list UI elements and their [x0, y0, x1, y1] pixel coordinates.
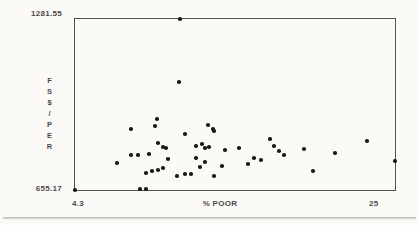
data-point	[144, 187, 148, 191]
data-point	[73, 188, 77, 192]
data-point	[164, 146, 168, 150]
data-point	[282, 153, 286, 157]
data-point	[156, 141, 160, 145]
data-point	[156, 168, 160, 172]
data-point	[252, 156, 256, 160]
data-point	[212, 129, 216, 133]
data-point	[129, 153, 133, 157]
data-point	[277, 149, 281, 153]
data-point	[311, 169, 315, 173]
data-point	[237, 146, 241, 150]
data-point	[166, 157, 170, 161]
page-scan-edge-line	[3, 217, 416, 218]
data-point	[183, 172, 187, 176]
data-point	[220, 164, 224, 168]
data-point	[155, 117, 159, 121]
data-point	[138, 187, 142, 191]
data-point	[177, 80, 181, 84]
data-point	[144, 171, 148, 175]
data-point	[175, 174, 179, 178]
data-point	[147, 152, 151, 156]
x-axis-max-tick-label: 25	[369, 199, 379, 208]
data-point	[194, 156, 198, 160]
data-point	[207, 145, 211, 149]
data-point	[189, 172, 193, 176]
data-point	[223, 148, 227, 152]
x-axis-title: % POOR	[160, 199, 280, 208]
data-point	[178, 17, 182, 21]
data-point	[365, 139, 369, 143]
data-point	[206, 123, 210, 127]
data-point	[161, 166, 165, 170]
data-point	[259, 158, 263, 162]
data-point	[203, 160, 207, 164]
data-point	[194, 144, 198, 148]
plot-area	[74, 18, 396, 191]
y-axis-max-tick-label: 1281.55	[16, 9, 62, 18]
data-point	[203, 146, 207, 150]
data-point	[129, 127, 133, 131]
data-point	[136, 153, 140, 157]
data-point	[212, 174, 216, 178]
data-point	[333, 151, 337, 155]
y-axis-title: FS$/PER	[45, 76, 54, 148]
data-point	[183, 132, 187, 136]
scatter-figure: 1281.55 FS$/PER 655.17 4.3 % POOR 25	[0, 0, 419, 225]
data-point	[268, 137, 272, 141]
data-point	[153, 124, 157, 128]
x-axis-min-tick-label: 4.3	[72, 199, 84, 208]
y-axis-min-tick-label: 655.17	[16, 184, 62, 193]
data-point	[115, 161, 119, 165]
data-point	[198, 165, 202, 169]
data-point	[246, 162, 250, 166]
data-point	[150, 169, 154, 173]
data-point	[302, 147, 306, 151]
data-point	[393, 159, 397, 163]
data-point	[272, 144, 276, 148]
